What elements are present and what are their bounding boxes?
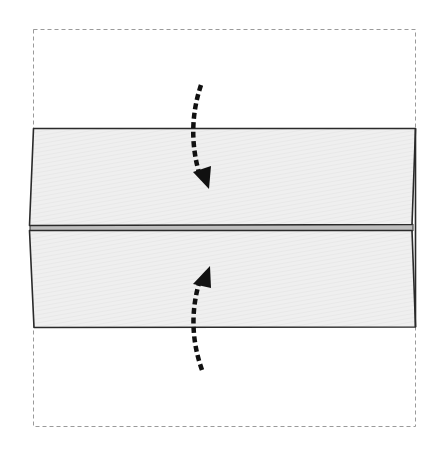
bottom-folded-flap xyxy=(30,231,416,328)
folding-diagram xyxy=(0,0,443,455)
top-folded-flap xyxy=(30,129,416,226)
